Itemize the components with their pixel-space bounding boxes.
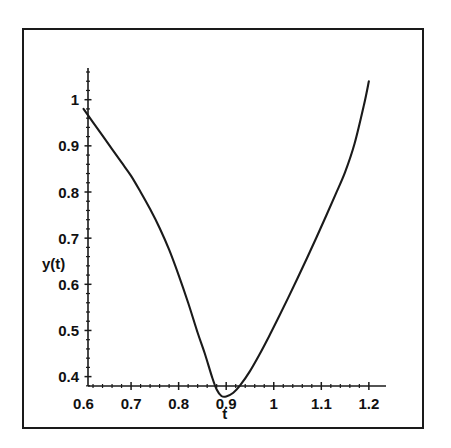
y-tick-label: 1: [71, 91, 79, 108]
x-tick-label: 0.6: [73, 395, 94, 412]
y-tick-label: 0.9: [58, 137, 79, 154]
y-axis-title: y(t): [42, 255, 65, 272]
figure-canvas: 0.40.50.60.70.80.91 0.60.70.80.911.11.2 …: [0, 0, 451, 448]
x-axis-title: t: [222, 405, 227, 422]
x-tick-label: 1.1: [311, 395, 332, 412]
y-axis-tick-labels: 0.40.50.60.70.80.91: [58, 91, 80, 385]
plot-frame-border: 0.40.50.60.70.80.91 0.60.70.80.911.11.2 …: [22, 28, 424, 429]
x-tick-label: 1: [270, 395, 278, 412]
y-tick-label: 0.5: [58, 322, 79, 339]
x-tick-label: 0.7: [121, 395, 142, 412]
data-series-line: [84, 81, 369, 397]
line-chart: 0.40.50.60.70.80.91 0.60.70.80.911.11.2 …: [24, 30, 422, 427]
y-tick-label: 0.8: [58, 184, 79, 201]
y-tick-label: 0.4: [58, 368, 80, 385]
x-tick-label: 0.8: [168, 395, 189, 412]
y-tick-label: 0.6: [58, 276, 79, 293]
x-tick-label: 1.2: [358, 395, 379, 412]
y-tick-label: 0.7: [58, 230, 79, 247]
